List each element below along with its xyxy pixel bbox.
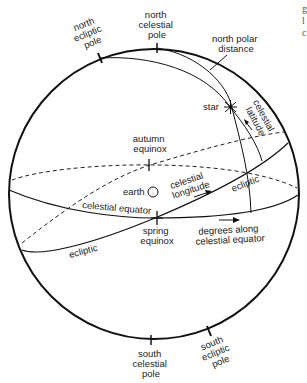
edge-fragment: l — [302, 15, 305, 26]
ecliptic-right-label: ecliptic — [230, 173, 261, 194]
ecliptic-latitude-circle — [100, 58, 262, 161]
edge-fragment: c — [302, 27, 307, 38]
ecliptic-left-label: ecliptic — [68, 242, 99, 260]
edge-fragment: g — [302, 3, 307, 14]
south-celestial-pole-label: south celestial pole — [133, 348, 170, 379]
star-label: star — [203, 101, 219, 112]
spring-equinox-label: spring equinox — [140, 225, 174, 246]
degrees-along-label: degrees along celestial equator — [195, 222, 265, 247]
south-ecliptic-pole-label: south ecliptic pole — [196, 331, 237, 372]
north-polar-distance-label: north polar distance — [212, 33, 260, 54]
north-ecliptic-pole-label: north ecliptic pole — [68, 12, 109, 53]
celestial-sphere-diagram: north ecliptic pole north celestial pole… — [0, 0, 307, 383]
north-celestial-pole-label: north celestial pole — [139, 9, 176, 40]
celestial-latitude-label: celestial latitude — [242, 98, 278, 141]
earth-label: earth — [123, 186, 145, 197]
degrees-along-arrow — [219, 217, 240, 223]
earth-icon — [148, 187, 158, 197]
autumn-equinox-label: autumn equinox — [133, 133, 167, 154]
